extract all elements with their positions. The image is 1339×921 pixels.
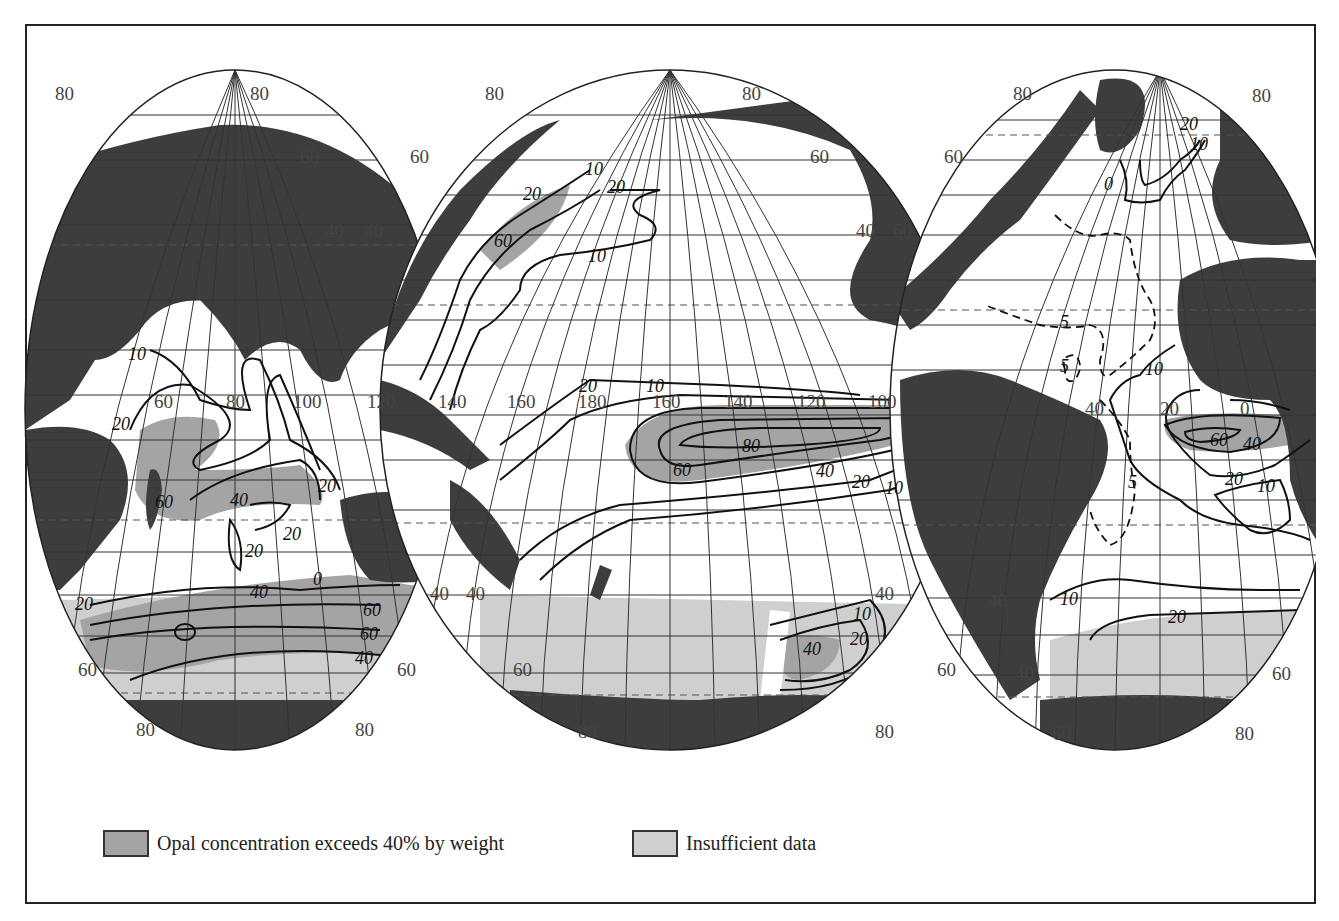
contour-label: 20	[245, 541, 263, 561]
contour-label: 60	[155, 492, 173, 512]
world-map: 80 80 60 40 40 60 60 80 80 80 80 60 60 4…	[0, 0, 1339, 921]
contour-label: 20	[283, 524, 301, 544]
lat-label: 80	[578, 721, 597, 742]
land-europe	[1212, 107, 1330, 245]
contour-label: 40	[355, 648, 373, 668]
contour-label: 10	[585, 159, 603, 179]
contour-label: 20	[1180, 114, 1198, 134]
lat-label: 60	[810, 146, 829, 167]
contour-label: 10	[1257, 476, 1275, 496]
lat-label: 60	[893, 220, 912, 241]
lat-label: 40	[988, 590, 1007, 611]
contour-label: 10	[853, 604, 871, 624]
lat-label: 80	[875, 721, 894, 742]
lat-label: 80	[742, 83, 761, 104]
contour-label: 20	[318, 476, 336, 496]
lon-label: 100	[868, 391, 897, 412]
contour-label: 0	[313, 569, 322, 589]
contour-label: 60	[494, 231, 512, 251]
lon-label: 40	[1085, 398, 1104, 419]
lon-label: 120	[797, 391, 826, 412]
lon-label: 160	[507, 391, 536, 412]
lat-label: 40	[1015, 663, 1034, 684]
atlantic-ocean-lobe	[890, 70, 1339, 760]
lat-label: 40	[325, 220, 344, 241]
legend-label-opal: Opal concentration exceeds 40% by weight	[157, 832, 504, 855]
contour-label: 40	[816, 461, 834, 481]
lat-label: 60	[397, 659, 416, 680]
contour-label: 0	[1104, 174, 1113, 194]
contour-label: 10	[1190, 134, 1208, 154]
land-antarctica-pacific	[510, 690, 900, 760]
contour-label: 60	[363, 600, 381, 620]
contour-label: 80	[742, 436, 760, 456]
lon-label: 120	[367, 391, 396, 412]
lat-label: 60	[944, 146, 963, 167]
lat-label: 60	[410, 146, 429, 167]
lat-label: 80	[250, 83, 269, 104]
pacific-ocean-lobe	[380, 70, 960, 760]
contour-label: 10	[1060, 589, 1078, 609]
lat-label: 60	[78, 659, 97, 680]
contour-label: 60	[1210, 430, 1228, 450]
lat-label: 80	[355, 719, 374, 740]
lat-label: 40	[875, 583, 894, 604]
insufficient-data-swatch-icon	[632, 830, 678, 857]
lat-label: 80	[136, 719, 155, 740]
contour-label: 5	[1128, 472, 1137, 492]
contour-label: 10	[1145, 359, 1163, 379]
contour-label: 20	[1225, 469, 1243, 489]
lon-label: 140	[724, 391, 753, 412]
contour-label: 40	[1243, 434, 1261, 454]
lat-label: 80	[1252, 85, 1271, 106]
contour-label: 20	[850, 629, 868, 649]
contour-label: 60	[360, 624, 378, 644]
contour-label: 10	[128, 344, 146, 364]
lat-label: 60	[937, 659, 956, 680]
contour-label: 10	[646, 376, 664, 396]
lat-label: 40	[466, 583, 485, 604]
contour-label: 10	[885, 478, 903, 498]
lat-label: 60	[1052, 723, 1071, 744]
lat-label: 40	[430, 583, 449, 604]
lat-label: 80	[1235, 723, 1254, 744]
lat-label: 40	[856, 220, 875, 241]
lat-label: 60	[300, 146, 319, 167]
legend-item-opal: Opal concentration exceeds 40% by weight	[103, 830, 504, 857]
lat-label: 80	[1013, 83, 1032, 104]
contour-label: 5	[1060, 356, 1069, 376]
contour-label: 10	[588, 246, 606, 266]
contour-label: 40	[230, 490, 248, 510]
contour-label: 20	[579, 376, 597, 396]
lon-label: 100	[293, 391, 322, 412]
contour-label: 40	[803, 639, 821, 659]
contour-label: 20	[1168, 607, 1186, 627]
lon-label: 20	[1160, 398, 1179, 419]
lat-label: 60	[513, 659, 532, 680]
contour-label: 20	[112, 414, 130, 434]
contour-label: 60	[673, 460, 691, 480]
contour-label: 20	[75, 594, 93, 614]
lon-label: 0	[1240, 398, 1250, 419]
lat-label: 40	[364, 220, 383, 241]
legend-label-insufficient-data: Insufficient data	[686, 832, 816, 855]
land-antarctica	[60, 700, 440, 760]
lat-label: 60	[1272, 663, 1291, 684]
contour-label: 20	[523, 184, 541, 204]
legend-item-insufficient-data: Insufficient data	[632, 830, 816, 857]
contour-label: 40	[250, 582, 268, 602]
lat-label: 80	[55, 83, 74, 104]
lon-label: 80	[226, 391, 245, 412]
lon-label: 140	[438, 391, 467, 412]
lat-label: 80	[485, 83, 504, 104]
contour-label: 20	[607, 177, 625, 197]
contour-label: 20	[852, 472, 870, 492]
opal-swatch-icon	[103, 830, 149, 857]
contour-label: 5	[1060, 312, 1069, 332]
lon-label: 60	[154, 391, 173, 412]
